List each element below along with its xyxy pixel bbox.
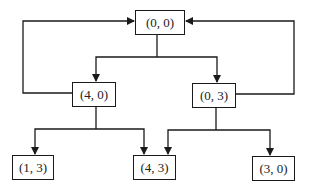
- node-3-0: (3, 0): [252, 156, 295, 181]
- node-0-3: (0, 3): [192, 83, 236, 108]
- node-label: (1, 3): [19, 160, 47, 176]
- node-4-0: (4, 0): [72, 82, 116, 107]
- edge-03-to-43: [168, 130, 216, 154]
- edge-00-to-03: [157, 57, 217, 82]
- edge-40-to-43: [96, 129, 144, 154]
- node-label: (3, 0): [259, 161, 287, 177]
- edge-03-to-30: [216, 130, 270, 155]
- node-4-3: (4, 3): [133, 155, 176, 180]
- node-label: (4, 0): [80, 87, 108, 103]
- edge-40-to-13: [35, 129, 96, 154]
- state-diagram: (0, 0) (4, 0) (0, 3) (1, 3) (4, 3) (3, 0…: [0, 0, 312, 190]
- node-label: (0, 3): [200, 88, 228, 104]
- node-0-0: (0, 0): [135, 10, 185, 35]
- node-1-3: (1, 3): [12, 155, 54, 180]
- edge-00-to-40: [96, 57, 157, 81]
- node-label: (4, 3): [140, 160, 168, 176]
- node-label: (0, 0): [146, 15, 174, 31]
